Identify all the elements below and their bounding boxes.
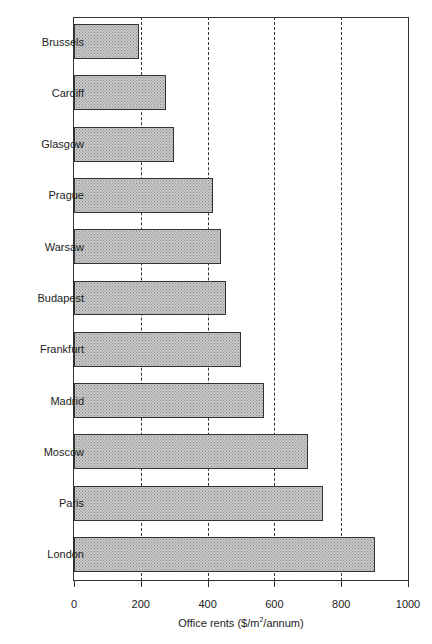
x-tick (141, 581, 142, 587)
category-label: Prague (49, 189, 84, 201)
x-tick-label: 0 (71, 598, 77, 610)
x-tick-label: 1000 (396, 598, 420, 610)
x-axis-title-text-end: /annum) (263, 617, 303, 629)
bar-warsaw (74, 229, 221, 264)
bar-budapest (74, 281, 226, 316)
gridline (341, 17, 342, 581)
category-label: Budapest (38, 292, 84, 304)
category-label: Moscow (44, 446, 84, 458)
bar-moscow (74, 434, 308, 469)
x-tick (74, 581, 75, 587)
bar-madrid (74, 383, 264, 418)
x-axis-title-text: Office rents ($/m (178, 617, 259, 629)
x-tick (341, 581, 342, 587)
bar-paris (74, 486, 323, 521)
category-label: Brussels (42, 36, 84, 48)
bar-chart: BrusselsCardiffGlasgowPragueWarsawBudape… (0, 0, 432, 644)
x-tick (208, 581, 209, 587)
category-label: Warsaw (45, 241, 84, 253)
category-label: Cardiff (52, 87, 84, 99)
x-tick (408, 581, 409, 587)
bar-frankfurt (74, 332, 241, 367)
x-tick-label: 800 (332, 598, 350, 610)
x-tick (274, 581, 275, 587)
x-tick-label: 200 (132, 598, 150, 610)
category-label: Frankfurt (40, 343, 84, 355)
bar-prague (74, 178, 213, 213)
bar-glasgow (74, 127, 174, 162)
x-tick-label: 400 (198, 598, 216, 610)
category-label: Glasgow (41, 138, 84, 150)
category-label: Paris (59, 497, 84, 509)
bar-london (74, 537, 375, 572)
bar-cardiff (74, 75, 166, 110)
x-tick-label: 600 (265, 598, 283, 610)
x-axis-title: Office rents ($/m2/annum) (178, 616, 303, 629)
category-label: London (47, 548, 84, 560)
category-label: Madrid (50, 395, 84, 407)
